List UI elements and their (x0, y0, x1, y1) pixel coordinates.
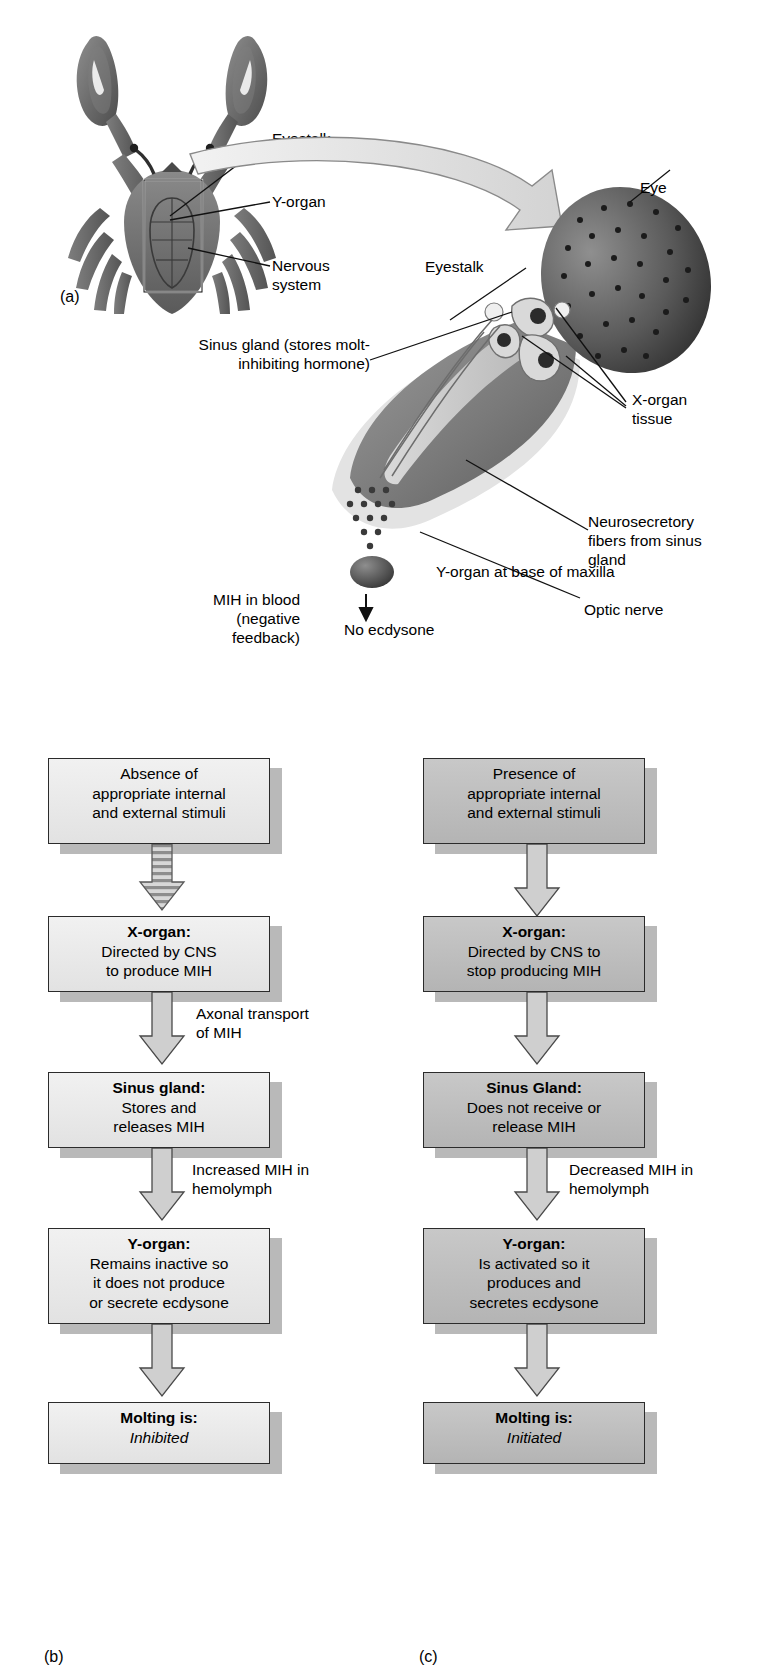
note-axonal-transport: Axonal transport of MIH (196, 1004, 309, 1042)
panel-c-letter: (c) (419, 1648, 438, 1666)
label-eye: Eye (640, 178, 667, 197)
flow-box-b-y-organ-header: Y-organ: (49, 1234, 269, 1254)
flow-box-b-x-organ-header: X-organ: (49, 922, 269, 942)
flow-box-c-x-organ: X-organ: Directed by CNS to stop produci… (423, 916, 645, 992)
note-decreased-mih: Decreased MIH in hemolymph (569, 1160, 693, 1198)
arrow-b-1 (130, 844, 194, 914)
note-increased-mih: Increased MIH in hemolymph (192, 1160, 309, 1198)
label-neurosecretory-fibers: Neurosecretory fibers from sinus gland (588, 512, 702, 569)
flow-box-b-molting-body: Inhibited (49, 1428, 269, 1448)
panel-b-letter: (b) (44, 1648, 64, 1666)
flow-box-c-x-organ-header: X-organ: (424, 922, 644, 942)
arrow-b-2 (130, 992, 194, 1068)
flow-box-b-x-organ-body: Directed by CNS to produce MIH (101, 943, 216, 980)
label-optic-nerve: Optic nerve (584, 600, 663, 619)
arrow-b-4 (130, 1324, 194, 1400)
flow-box-b-stimuli: Absence of appropriate internal and exte… (48, 758, 270, 844)
arrow-c-1 (505, 844, 569, 920)
arrow-c-3 (505, 1148, 569, 1224)
label-mih-in-blood: MIH in blood (negative feedback) (140, 590, 300, 647)
arrow-b-3 (130, 1148, 194, 1224)
arrow-c-2 (505, 992, 569, 1068)
flow-box-b-y-organ-body: Remains inactive so it does not produce … (89, 1255, 229, 1311)
flow-box-b-molting-header: Molting is: (49, 1408, 269, 1428)
flow-box-c-stimuli-body: Presence of appropriate internal and ext… (467, 765, 601, 821)
label-x-organ-tissue: X-organ tissue (632, 390, 687, 428)
flow-box-c-y-organ: Y-organ: Is activated so it produces and… (423, 1228, 645, 1324)
flow-box-b-x-organ: X-organ: Directed by CNS to produce MIH (48, 916, 270, 992)
flow-box-b-molting: Molting is: Inhibited (48, 1402, 270, 1464)
panel-eyestalk-detail: Eye Eyestalk Sinus gland (stores molt- i… (0, 150, 766, 730)
crab-left-claw (77, 36, 136, 158)
flow-box-c-molting: Molting is: Initiated (423, 1402, 645, 1464)
flow-box-c-sinus-gland-header: Sinus Gland: (424, 1078, 644, 1098)
flow-box-b-sinus-gland-header: Sinus gland: (49, 1078, 269, 1098)
flow-box-c-y-organ-body: Is activated so it produces and secretes… (469, 1255, 598, 1311)
flow-box-b-sinus-gland: Sinus gland: Stores and releases MIH (48, 1072, 270, 1148)
flow-box-c-molting-header: Molting is: (424, 1408, 644, 1428)
label-y-organ-base-maxilla: Y-organ at base of maxilla (436, 562, 615, 581)
flow-box-c-y-organ-header: Y-organ: (424, 1234, 644, 1254)
label-eyestalk-detail: Eyestalk (425, 257, 484, 276)
flow-box-c-sinus-gland: Sinus Gland: Does not receive or release… (423, 1072, 645, 1148)
label-sinus-gland: Sinus gland (stores molt- inhibiting hor… (198, 335, 370, 373)
flow-box-c-stimuli: Presence of appropriate internal and ext… (423, 758, 645, 844)
flow-box-b-stimuli-body: Absence of appropriate internal and exte… (92, 765, 226, 821)
flow-box-c-sinus-gland-body: Does not receive or release MIH (467, 1099, 601, 1136)
panel-c-flowchart: Presence of appropriate internal and ext… (383, 748, 766, 1677)
flow-box-b-sinus-gland-body: Stores and releases MIH (113, 1099, 204, 1136)
flow-box-b-y-organ: Y-organ: Remains inactive so it does not… (48, 1228, 270, 1324)
arrow-c-4 (505, 1324, 569, 1400)
flow-box-c-x-organ-body: Directed by CNS to stop producing MIH (467, 943, 601, 980)
panel-b-flowchart: Absence of appropriate internal and exte… (0, 748, 383, 1677)
label-no-ecdysone: No ecdysone (344, 620, 434, 639)
flow-box-c-molting-body: Initiated (424, 1428, 644, 1448)
